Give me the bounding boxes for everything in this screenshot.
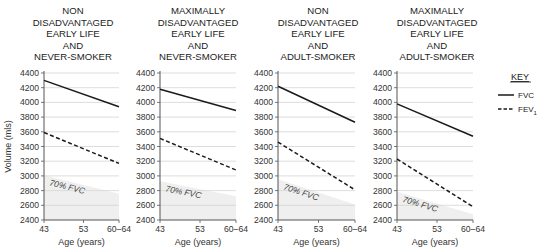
- y-tick-label: 4400: [254, 68, 273, 78]
- y-tick-label: 2800: [373, 186, 392, 196]
- x-tick-label: 60–64: [343, 224, 367, 234]
- y-tick-label: 2600: [136, 200, 155, 210]
- y-tick-label: 3000: [373, 171, 392, 181]
- y-tick-label: 4400: [136, 68, 155, 78]
- y-tick-label: 2800: [20, 186, 39, 196]
- y-tick-label: 4200: [254, 83, 273, 93]
- y-tick-label: 3800: [20, 112, 39, 122]
- y-tick-label: 3200: [373, 156, 392, 166]
- y-tick-label: 4400: [20, 68, 39, 78]
- x-tick-label: 53: [195, 224, 205, 234]
- fvc-line: [44, 80, 119, 106]
- y-tick-label: 3800: [254, 112, 273, 122]
- y-tick-label: 3400: [373, 142, 392, 152]
- y-tick-label: 2800: [136, 186, 155, 196]
- x-tick-label: 60–64: [107, 224, 131, 234]
- x-tick-label: 43: [39, 224, 49, 234]
- y-tick-label: 4200: [373, 83, 392, 93]
- chart-panel-4: 2400260028003000320034003600380040004200…: [373, 68, 485, 247]
- fvc-line: [397, 104, 473, 136]
- y-tick-label: 4000: [373, 97, 392, 107]
- y-tick-label: 2400: [20, 215, 39, 225]
- x-tick-label: 43: [392, 224, 402, 234]
- y-tick-label: 3600: [373, 127, 392, 137]
- x-tick-label: 53: [314, 224, 324, 234]
- x-axis-label: Age (years): [175, 237, 222, 247]
- y-tick-label: 2400: [254, 215, 273, 225]
- y-tick-label: 3200: [20, 156, 39, 166]
- x-axis-label: Age (years): [58, 237, 105, 247]
- fev1-line: [44, 133, 119, 164]
- chart-canvas: 2400260028003000320034003600380040004200…: [0, 0, 546, 252]
- y-tick-label: 2600: [254, 200, 273, 210]
- legend-title: KEY: [511, 72, 529, 82]
- x-tick-label: 60–64: [461, 224, 485, 234]
- y-tick-label: 3800: [136, 112, 155, 122]
- y-tick-label: 3400: [254, 142, 273, 152]
- x-axis-label: Age (years): [412, 237, 459, 247]
- x-tick-label: 43: [155, 224, 165, 234]
- y-tick-label: 3400: [136, 142, 155, 152]
- y-tick-label: 4000: [20, 97, 39, 107]
- y-tick-label: 2400: [136, 215, 155, 225]
- y-tick-label: 3200: [136, 156, 155, 166]
- y-tick-label: 2800: [254, 186, 273, 196]
- x-tick-label: 53: [432, 224, 442, 234]
- y-tick-label: 3800: [373, 112, 392, 122]
- y-tick-label: 4200: [20, 83, 39, 93]
- chart-panel-3: 2400260028003000320034003600380040004200…: [254, 68, 367, 247]
- x-tick-label: 53: [79, 224, 89, 234]
- fev1-line: [160, 138, 236, 170]
- y-tick-label: 3600: [254, 127, 273, 137]
- x-axis-label: Age (years): [293, 237, 340, 247]
- y-tick-label: 3600: [20, 127, 39, 137]
- y-tick-label: 4400: [373, 68, 392, 78]
- y-tick-label: 4000: [254, 97, 273, 107]
- y-tick-label: 3000: [20, 171, 39, 181]
- y-tick-label: 3400: [20, 142, 39, 152]
- chart-panel-2: 2400260028003000320034003600380040004200…: [136, 68, 248, 247]
- y-tick-label: 2600: [373, 200, 392, 210]
- y-axis-label: Volume (mls): [3, 120, 13, 173]
- fvc-line: [160, 89, 236, 110]
- legend: KEYFVCFEV1: [498, 72, 538, 116]
- legend-label: FVC: [518, 91, 534, 100]
- legend-label: FEV1: [518, 105, 538, 116]
- y-tick-label: 2400: [373, 215, 392, 225]
- y-tick-label: 3200: [254, 156, 273, 166]
- y-tick-label: 3000: [254, 171, 273, 181]
- y-tick-label: 4000: [136, 97, 155, 107]
- y-tick-label: 3000: [136, 171, 155, 181]
- x-tick-label: 43: [273, 224, 283, 234]
- y-tick-label: 3600: [136, 127, 155, 137]
- y-tick-label: 2600: [20, 200, 39, 210]
- y-tick-label: 4200: [136, 83, 155, 93]
- chart-panel-1: 2400260028003000320034003600380040004200…: [3, 68, 131, 247]
- x-tick-label: 60–64: [224, 224, 248, 234]
